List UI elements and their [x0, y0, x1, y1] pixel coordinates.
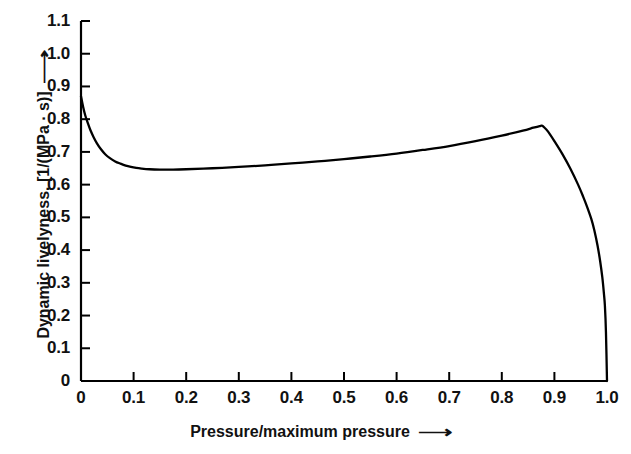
- x-tick-label: 0.2: [156, 388, 216, 408]
- x-axis-arrow-icon: ⟶: [418, 422, 453, 441]
- x-tick-label: 0.6: [367, 388, 427, 408]
- x-axis-title: Pressure/maximum pressure⟶: [0, 422, 631, 441]
- y-axis-tick-marks: [81, 21, 90, 348]
- x-tick-label: 0.7: [419, 388, 479, 408]
- axes-group: [81, 21, 607, 381]
- x-axis-tick-marks: [134, 372, 607, 381]
- plot-canvas: [0, 0, 631, 454]
- x-tick-label: 1.0: [577, 388, 631, 408]
- x-tick-label: 0.4: [261, 388, 321, 408]
- y-tick-label: 1.1: [8, 11, 70, 31]
- x-tick-label: 0.8: [472, 388, 532, 408]
- y-axis-title-text: Dynamic livelyness, [1/(MPa · s)]: [35, 91, 52, 338]
- x-tick-label: 0.3: [209, 388, 269, 408]
- x-tick-label: 0.1: [104, 388, 164, 408]
- x-axis-title-text: Pressure/maximum pressure: [190, 423, 410, 440]
- y-axis-arrow-icon: ⟶: [34, 49, 53, 84]
- x-tick-label: 0.5: [314, 388, 374, 408]
- x-tick-label: 0: [51, 388, 111, 408]
- data-series-line: [81, 96, 607, 381]
- y-axis-title: Dynamic livelyness, [1/(MPa · s)]⟶: [34, 35, 53, 365]
- chart-figure: 00.10.20.30.40.50.60.70.80.91.01.1 00.10…: [0, 0, 631, 454]
- x-tick-label: 0.9: [524, 388, 584, 408]
